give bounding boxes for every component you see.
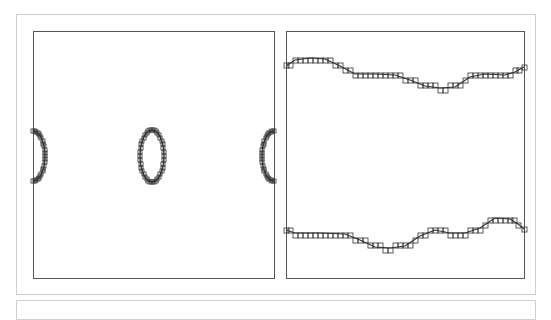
grid-cell: [448, 233, 453, 238]
grid-cell: [458, 233, 463, 238]
grid-cell: [453, 233, 458, 238]
grid-cell: [493, 73, 498, 78]
grid-cell: [498, 73, 503, 78]
grid-cell: [438, 88, 443, 93]
grid-cell: [308, 233, 313, 238]
grid-cell: [443, 88, 448, 93]
grid-cell: [298, 233, 303, 238]
grid-cell: [293, 233, 298, 238]
grid-cell: [318, 233, 323, 238]
grid-cell: [383, 248, 388, 253]
grid-cell: [388, 248, 393, 253]
grid-cell: [463, 233, 468, 238]
grid-cell: [388, 73, 393, 78]
grid-cell: [303, 233, 308, 238]
grid-cell: [383, 73, 388, 78]
cell-ellipse: [140, 130, 164, 182]
grid-cell: [313, 233, 318, 238]
